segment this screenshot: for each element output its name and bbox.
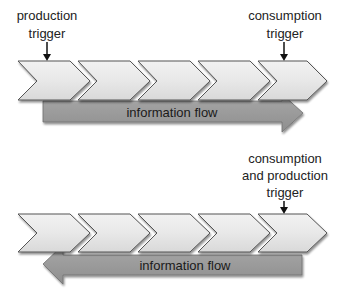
trigger-label-line: trigger xyxy=(267,185,305,200)
down-arrow-icon xyxy=(280,201,288,214)
production-trigger-label: production trigger xyxy=(17,8,78,41)
consumption-trigger-label: consumption trigger xyxy=(248,8,322,41)
process-flow-diagram: production trigger consumption trigger xyxy=(0,0,346,300)
trigger-label-line: consumption xyxy=(248,8,322,23)
trigger-label-line: and production xyxy=(242,168,328,183)
information-flow-label: information flow xyxy=(139,258,231,273)
chevron-row xyxy=(18,61,327,100)
information-flow-label: information flow xyxy=(126,105,218,120)
chevron-row xyxy=(18,214,327,252)
down-arrow-icon xyxy=(280,42,288,61)
bottom-diagram: consumption and production trigger infor… xyxy=(18,151,328,284)
consumption-and-production-trigger-label: consumption and production trigger xyxy=(242,151,328,200)
trigger-label-line: trigger xyxy=(267,26,305,41)
chevron-step xyxy=(18,61,90,100)
trigger-label-line: production xyxy=(17,8,78,23)
trigger-label-line: trigger xyxy=(29,26,67,41)
trigger-label-line: consumption xyxy=(248,151,322,166)
chevron-step xyxy=(18,214,90,252)
top-diagram: production trigger consumption trigger xyxy=(17,8,327,132)
down-arrow-icon xyxy=(43,42,51,61)
